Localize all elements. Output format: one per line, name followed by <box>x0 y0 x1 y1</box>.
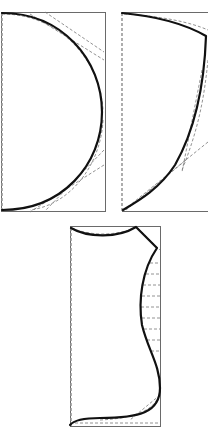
panel-1-construction-curve <box>30 120 103 210</box>
panel-2-curve <box>122 13 206 210</box>
panel-1-construction-line <box>45 12 104 52</box>
panel-2 <box>122 13 208 212</box>
panel-3-frame <box>71 227 161 427</box>
panel-2-construction-line <box>182 70 202 172</box>
panel-3 <box>70 227 161 427</box>
panel-3-curve <box>70 227 160 425</box>
panel-1-curve <box>2 13 102 210</box>
panel-1-frame <box>2 13 106 212</box>
panel-2-construction-curve <box>124 14 208 30</box>
panel-1 <box>2 12 106 212</box>
figure-canvas <box>0 0 208 430</box>
